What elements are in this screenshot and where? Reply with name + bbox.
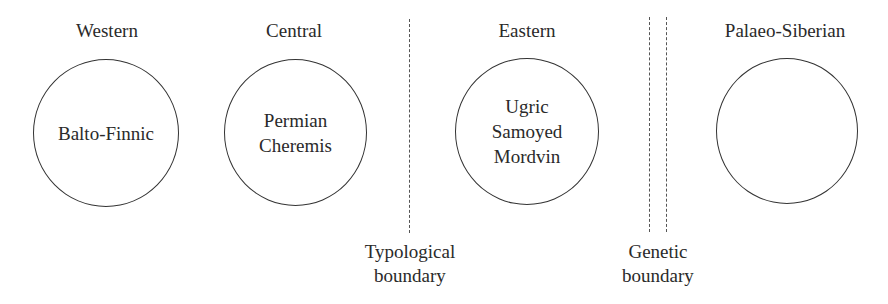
typological-boundary-label-line2: boundary xyxy=(330,264,490,288)
genetic-boundary-line-left xyxy=(649,17,650,232)
genetic-boundary-label-line2: boundary xyxy=(578,264,738,288)
typological-boundary-line xyxy=(409,19,410,233)
circle-central: Permian Cheremis xyxy=(224,59,367,206)
language-mordvin: Mordvin xyxy=(494,144,561,169)
language-ugric: Ugric xyxy=(505,94,548,119)
language-permian: Permian xyxy=(264,108,327,133)
language-samoyed: Samoyed xyxy=(492,119,563,144)
genetic-boundary-line-right xyxy=(666,17,667,232)
language-cheremis: Cheremis xyxy=(259,133,332,158)
circle-eastern: Ugric Samoyed Mordvin xyxy=(455,58,599,205)
heading-central: Central xyxy=(194,20,394,42)
circle-western: Balto-Finnic xyxy=(33,59,179,207)
genetic-boundary-label-line1: Genetic xyxy=(578,240,738,264)
circle-palaeo-siberian xyxy=(716,58,858,204)
typological-boundary-label: Typological boundary xyxy=(330,240,490,288)
heading-palaeo-siberian: Palaeo-Siberian xyxy=(685,20,885,42)
typological-boundary-label-line1: Typological xyxy=(330,240,490,264)
language-balto-finnic: Balto-Finnic xyxy=(58,121,154,146)
genetic-boundary-label: Genetic boundary xyxy=(578,240,738,288)
heading-western: Western xyxy=(7,20,207,42)
heading-eastern: Eastern xyxy=(427,20,627,42)
